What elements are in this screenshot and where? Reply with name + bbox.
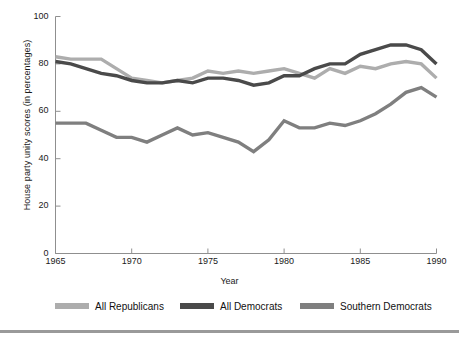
y-tick-label: 40 [23, 153, 49, 163]
series-line-all-republicans [56, 57, 437, 83]
legend-entry: All Democrats [180, 298, 282, 314]
legend-swatch [180, 303, 214, 309]
x-tick-label: 1985 [340, 256, 380, 266]
legend-label: All Republicans [95, 301, 164, 312]
chart-figure: House party unity scores (in percentages… [0, 0, 459, 337]
legend-swatch [55, 303, 89, 309]
y-tick-label: 80 [23, 58, 49, 68]
chart-plot-area [0, 0, 459, 337]
legend-label: Southern Democrats [340, 301, 432, 312]
y-tick-label: 20 [23, 200, 49, 210]
y-tick-label: 100 [23, 11, 49, 21]
legend-swatch [300, 303, 334, 309]
x-tick-label: 1980 [264, 256, 304, 266]
series-line-southern-democrats [56, 88, 437, 152]
bottom-divider [0, 330, 459, 333]
x-tick-label: 1975 [188, 256, 228, 266]
x-axis-label: Year [0, 276, 459, 286]
legend-entry: All Republicans [55, 298, 164, 314]
x-tick-label: 1970 [112, 256, 152, 266]
chart-legend: All RepublicansAll DemocratsSouthern Dem… [0, 298, 459, 318]
y-tick-label: 60 [23, 105, 49, 115]
legend-entry: Southern Democrats [300, 298, 432, 314]
x-tick-label: 1965 [36, 256, 76, 266]
x-tick-label: 1990 [417, 256, 457, 266]
legend-label: All Democrats [220, 301, 282, 312]
